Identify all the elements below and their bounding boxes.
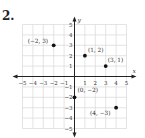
x-tick-label: 2 (94, 80, 98, 86)
data-point-label: (4, −3) (90, 110, 110, 116)
x-tick-label: 3 (104, 80, 108, 86)
y-tick-label: −4 (64, 115, 73, 121)
data-point-label: (3, 1) (108, 57, 124, 63)
y-tick-label: −1 (64, 84, 72, 90)
x-tick-label: 4 (114, 80, 118, 86)
y-tick-label: 4 (69, 32, 73, 38)
tick-labels: xy−5−4−3−2−11234554321−1−2−3−4−5 (18, 16, 136, 132)
y-tick-label: 2 (69, 53, 73, 59)
data-point-label: (1, 2) (88, 47, 104, 53)
x-axis-arrow-left-icon (13, 75, 18, 79)
y-tick-label: −2 (64, 94, 72, 100)
data-point-label: (0, −2) (78, 87, 98, 93)
y-axis-arrow-up-icon (73, 17, 77, 22)
data-point (52, 43, 56, 47)
x-axis-label: x (133, 67, 137, 74)
data-point (73, 95, 77, 99)
y-tick-label: −5 (64, 126, 73, 132)
y-axis-arrow-down-icon (73, 133, 77, 138)
x-tick-label: −2 (50, 80, 58, 86)
y-tick-label: 1 (69, 63, 73, 69)
data-point (104, 64, 108, 68)
coordinate-plane: xy−5−4−3−2−11234554321−1−2−3−4−5 (−2, 3)… (0, 0, 145, 138)
x-axis-arrow-right-icon (132, 75, 137, 79)
x-tick-label: 1 (83, 80, 87, 86)
y-axis-label: y (77, 16, 82, 24)
x-tick-label: −5 (18, 80, 27, 86)
y-tick-label: 3 (69, 42, 73, 48)
data-point-label: (−2, 3) (28, 38, 48, 44)
data-point (83, 54, 87, 58)
x-tick-label: −3 (39, 80, 48, 86)
x-tick-label: −4 (29, 80, 38, 86)
data-point (114, 106, 118, 110)
y-tick-label: −3 (64, 105, 73, 111)
y-tick-label: 5 (69, 22, 73, 28)
x-tick-label: 5 (125, 80, 129, 86)
